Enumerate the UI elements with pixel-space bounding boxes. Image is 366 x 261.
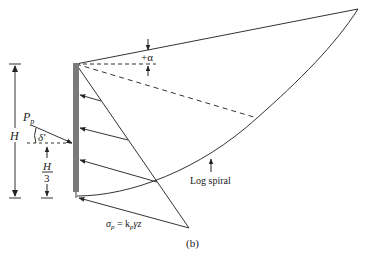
- third-height-numerator: H: [42, 160, 52, 172]
- backfill-surface-line: [76, 9, 358, 64]
- pressure-triangle-edge: [76, 64, 189, 228]
- pressure-arrow-3: [80, 160, 157, 182]
- diagram-canvas: +α Pp δ' H H 3 Log spiral σp = kpγz (b): [0, 0, 366, 261]
- pressure-equation-label: σp = kpγz: [106, 218, 142, 231]
- third-height-denominator: 3: [44, 172, 50, 184]
- passive-force-label: Pp: [22, 110, 34, 126]
- figure-caption: (b): [186, 237, 199, 250]
- log-spiral-label: Log spiral: [190, 175, 231, 186]
- delta-angle-arc: [35, 128, 37, 143]
- log-spiral-curve: [77, 9, 358, 196]
- retaining-wall: [73, 63, 79, 192]
- delta-label: δ': [38, 131, 46, 143]
- height-arrowhead-bottom: [12, 190, 18, 197]
- height-label: H: [9, 129, 20, 143]
- dashed-radial-line: [76, 64, 257, 118]
- alpha-label: +α: [141, 51, 153, 63]
- height-arrowhead-top: [12, 65, 18, 72]
